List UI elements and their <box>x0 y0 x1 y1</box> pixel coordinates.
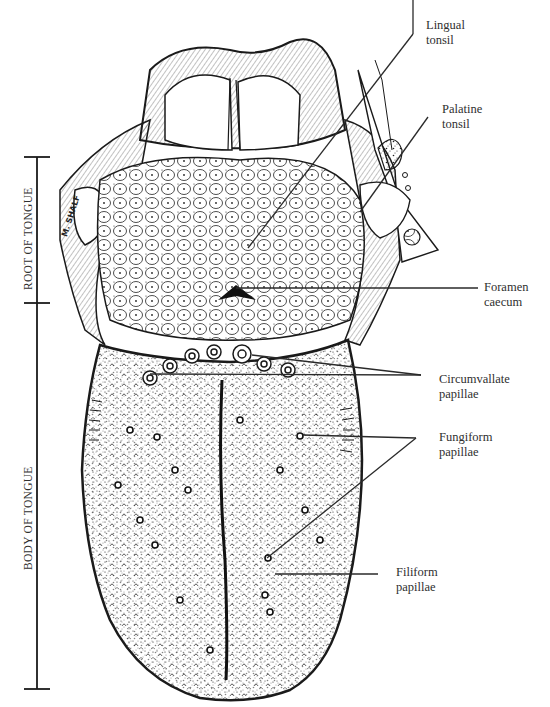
label-line: Foramen <box>484 280 528 295</box>
label-circumvallate-papillae: Circumvallate papillae <box>439 372 510 402</box>
tongue-body <box>82 340 362 700</box>
label-line: tonsil <box>442 117 482 132</box>
label-line: Fungiform <box>439 430 492 445</box>
label-line: papillae <box>439 387 510 402</box>
label-line: Palatine <box>442 102 482 117</box>
label-line: tonsil <box>426 33 465 48</box>
label-fungiform-papillae: Fungiform papillae <box>439 430 492 460</box>
label-line: Circumvallate <box>439 372 510 387</box>
epiglottis <box>140 39 345 150</box>
label-foramen-caecum: Foramen caecum <box>484 280 528 310</box>
label-filiform-papillae: Filiform papillae <box>396 565 438 595</box>
label-palatine-tonsil: Palatine tonsil <box>442 102 482 132</box>
body-of-tongue-label: BODY OF TONGUE <box>22 466 34 570</box>
label-line: papillae <box>396 580 438 595</box>
tongue-root <box>98 158 365 341</box>
label-line: Filiform <box>396 565 438 580</box>
root-of-tongue-label: ROOT OF TONGUE <box>22 187 34 290</box>
label-lingual-tonsil: Lingual tonsil <box>426 18 465 48</box>
label-line: caecum <box>484 295 528 310</box>
label-line: papillae <box>439 445 492 460</box>
label-line: Lingual <box>426 18 465 33</box>
